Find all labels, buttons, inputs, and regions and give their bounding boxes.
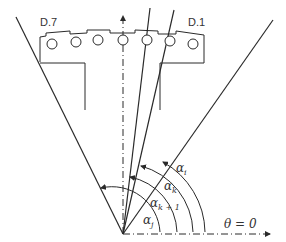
slot-1 (188, 39, 198, 49)
theta-zero-label: θ = 0 (224, 218, 257, 230)
slot-7 (47, 39, 57, 49)
slot-3 (142, 35, 152, 45)
slot-2 (165, 36, 175, 46)
slot-6 (71, 37, 81, 47)
slot-label-left: D.7 (40, 17, 57, 28)
angle-label-alpha-k1: αk + 1 (150, 197, 180, 212)
angle-label-alpha-i: αi (176, 162, 187, 177)
right-boundary-line (123, 20, 273, 234)
diagram-canvas (0, 0, 286, 242)
slot-5 (93, 35, 103, 45)
slot-label-right: D.1 (188, 17, 205, 28)
slot-4 (118, 35, 128, 45)
angle-label-alpha-k: αk (164, 180, 177, 195)
left-boundary-line (16, 17, 123, 234)
angle-label-alpha-j: αj (143, 214, 154, 229)
